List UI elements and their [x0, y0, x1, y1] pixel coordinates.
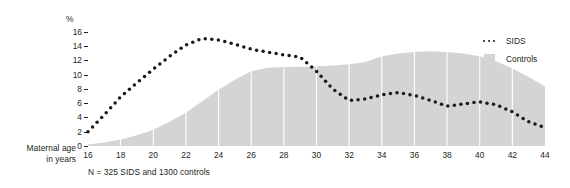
sids-data-dot: [255, 48, 259, 52]
sids-data-dot: [408, 93, 412, 97]
sids-data-dot: [466, 102, 470, 106]
sids-data-dot: [123, 92, 127, 96]
sids-data-dot: [389, 92, 393, 96]
sids-data-dot: [248, 47, 252, 51]
sids-data-dot: [382, 93, 386, 97]
y-axis-tick-label: 12: [60, 55, 88, 65]
sids-data-dot: [133, 83, 137, 87]
x-axis-tick-label: 18: [108, 150, 134, 160]
sids-data-dot: [217, 38, 221, 42]
sids-data-dot: [179, 47, 183, 51]
sids-data-dot: [143, 75, 147, 79]
sids-data-dot: [446, 104, 450, 108]
legend-item-controls: Controls: [478, 51, 570, 67]
sids-data-dot: [86, 130, 90, 134]
y-axis-unit-label: %: [66, 14, 73, 24]
sids-data-dot: [169, 54, 173, 58]
sids-data-dot: [510, 110, 513, 114]
x-axis-tick-label: 38: [434, 150, 460, 160]
x-axis-tick-label: 28: [271, 150, 297, 160]
sids-data-dot: [197, 38, 201, 42]
sids-data-dot: [472, 101, 476, 105]
sids-data-dot: [485, 101, 489, 105]
sids-data-dot: [242, 45, 246, 49]
sids-data-dot: [191, 41, 195, 45]
sids-data-dot: [533, 122, 537, 126]
sids-data-dot: [434, 100, 438, 104]
x-axis-tick-label: 30: [304, 150, 330, 160]
y-axis-tick-label: 4: [60, 112, 88, 122]
sids-data-dot: [210, 38, 214, 42]
sids-data-dot: [395, 91, 399, 95]
sids-data-dot: [236, 43, 240, 47]
sids-data-dot: [281, 53, 285, 57]
x-axis-tick-label: 40: [467, 150, 493, 160]
legend-label-sids: SIDS: [506, 36, 526, 46]
sids-data-dot: [158, 62, 162, 66]
sids-data-dot: [91, 125, 95, 128]
sids-data-dot: [339, 93, 343, 97]
y-axis-tick-label: 10: [60, 70, 88, 80]
sids-data-dot: [504, 107, 508, 111]
x-axis-tick-label: 42: [499, 150, 525, 160]
plot-area: [88, 25, 545, 146]
sids-data-dot: [104, 111, 108, 115]
sids-data-dot: [163, 58, 167, 62]
sids-data-dot: [421, 96, 425, 100]
x-axis-tick-label: 22: [173, 150, 199, 160]
sids-data-dot: [516, 113, 520, 117]
sids-data-dot: [319, 75, 323, 79]
sids-data-dot: [376, 94, 380, 98]
sids-data-dot: [203, 37, 207, 41]
sids-data-dot: [324, 79, 328, 83]
x-axis-tick-label: 32: [336, 150, 362, 160]
sids-data-dot: [95, 120, 99, 124]
sids-data-dot: [100, 116, 104, 120]
sids-data-dot: [109, 106, 113, 110]
sids-data-dot: [294, 55, 298, 59]
sids-data-dot: [356, 98, 360, 102]
x-axis-tick-label: 24: [206, 150, 232, 160]
sids-data-dot: [402, 92, 406, 96]
sids-data-dot: [453, 103, 457, 107]
sids-data-dot: [174, 50, 178, 54]
y-axis-tick-label: 14: [60, 41, 88, 51]
sids-data-dot: [540, 124, 544, 128]
filled-square-icon: [478, 53, 500, 65]
x-axis-tick-label: 16: [75, 150, 101, 160]
sids-data-dot: [229, 41, 233, 45]
sids-data-dot: [521, 117, 525, 121]
x-axis-tick-label: 44: [532, 150, 558, 160]
sids-data-dot: [300, 57, 304, 61]
sids-data-dot: [153, 66, 157, 70]
sids-data-dot: [369, 96, 373, 100]
sids-data-dot: [498, 105, 502, 109]
sids-data-dot: [287, 54, 291, 58]
y-axis-tick-label: 16: [60, 27, 88, 37]
sids-data-dot: [479, 100, 483, 104]
sids-data-dot: [459, 103, 463, 107]
sids-data-dot: [363, 97, 367, 101]
sample-size-footnote: N = 325 SIDS and 1300 controls: [88, 167, 210, 177]
sids-data-dot: [492, 103, 496, 107]
legend-item-sids: SIDS: [478, 33, 570, 49]
sids-data-dot: [138, 79, 142, 83]
sids-data-dot: [113, 101, 117, 105]
x-axis-tick-label: 36: [401, 150, 427, 160]
sids-data-dot: [328, 84, 332, 88]
sids-data-dot: [350, 98, 354, 102]
x-axis-tick-label: 34: [369, 150, 395, 160]
sids-data-dot: [344, 96, 348, 100]
chart-figure: % Maternal age in years 0246810121416 16…: [0, 0, 570, 188]
sids-data-dot: [440, 102, 444, 106]
sids-data-dot: [310, 65, 314, 69]
y-axis-tick-label: 8: [60, 84, 88, 94]
sids-data-dot: [223, 40, 227, 44]
sids-data-dot: [315, 70, 319, 74]
sids-data-dot: [261, 50, 265, 54]
legend: SIDS Controls: [478, 33, 570, 69]
sids-data-dot: [185, 43, 189, 47]
sids-data-dot: [527, 120, 531, 124]
sids-data-dot: [118, 96, 122, 100]
legend-label-controls: Controls: [506, 54, 537, 64]
